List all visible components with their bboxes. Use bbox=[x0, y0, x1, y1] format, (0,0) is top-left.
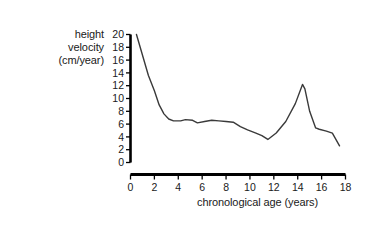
height-velocity-chart: height velocity (cm/year) chronological … bbox=[0, 0, 389, 233]
x-axis bbox=[131, 175, 346, 180]
y-axis bbox=[126, 35, 131, 163]
plot-area bbox=[0, 0, 389, 233]
height-velocity-curve bbox=[136, 35, 339, 146]
